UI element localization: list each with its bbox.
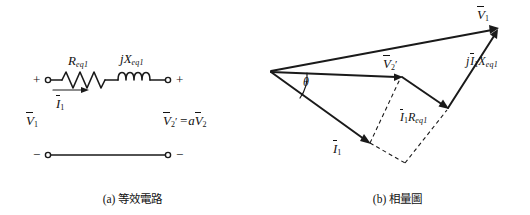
- minus-sign-left: −: [33, 148, 40, 161]
- phasor-v1-subscript: 1: [485, 14, 489, 23]
- panel-a-caption: (a) 等效電路: [0, 190, 265, 206]
- construction-line-bottom-left: [370, 143, 405, 163]
- phasor-v1-head: [489, 25, 499, 34]
- resistor-label: Req1: [68, 52, 88, 69]
- equivalent-circuit-drawing: [0, 0, 265, 215]
- phasor-v1-symbol: V: [477, 8, 485, 21]
- output-voltage-label: V2′=aV2: [163, 112, 207, 129]
- output-voltage-expression: =a: [179, 113, 194, 128]
- inductor-label-subscript: eq1: [132, 58, 144, 67]
- panel-b-caption: (b) 相量圖: [265, 190, 530, 206]
- resistor-label-symbol: R: [68, 53, 76, 68]
- phasor-ji1xeq-i-symbol: I: [470, 55, 474, 67]
- plus-sign-left: +: [33, 73, 40, 86]
- phasor-ji1xeq-x-symbol: X: [478, 54, 485, 68]
- current-label-symbol: I: [56, 97, 60, 110]
- phasor-i1-symbol: I: [333, 142, 337, 155]
- figure-container: + + − − Req1 jXeq1 I1 V1 V2′=aV2 (a) 等效電…: [0, 0, 530, 215]
- input-voltage-subscript: 1: [34, 120, 38, 129]
- output-voltage-ref-symbol: V: [195, 114, 203, 127]
- phasor-ji1xeq-j: j: [466, 54, 469, 68]
- terminal-input-bottom: [45, 152, 50, 157]
- theta-angle-label: θ: [303, 76, 309, 88]
- phasor-ji1xeq-x-subscript: eq1: [486, 60, 498, 69]
- phasor-i1req-label: I1Req1: [400, 108, 428, 125]
- phasor-i1-label: I1: [333, 140, 341, 157]
- phasor-ji1xeq-shaft: [448, 36, 494, 108]
- phasor-i1req-head: [439, 100, 450, 110]
- output-voltage-symbol: V: [163, 114, 171, 127]
- terminal-input-top: [45, 77, 50, 82]
- output-voltage-prime: ′: [175, 115, 177, 127]
- phasor-i1req-shaft: [402, 77, 443, 105]
- phasor-i1req-r-subscript: eq1: [415, 116, 427, 125]
- construction-line-left: [370, 79, 400, 143]
- current-label-subscript: 1: [60, 103, 64, 112]
- inductor-label: jXeq1: [120, 50, 144, 67]
- plus-sign-right: +: [176, 73, 183, 86]
- phasor-v2prime-label: V2′: [383, 55, 397, 72]
- phasor-i1-head: [360, 134, 371, 144]
- phasor-v2prime-shaft: [271, 72, 396, 77]
- current-label: I1: [56, 95, 64, 112]
- phasor-i1-subscript: 1: [337, 148, 341, 157]
- phasor-i1-shaft: [271, 72, 364, 139]
- phasor-ji1xeq-head: [490, 29, 498, 39]
- input-voltage-symbol: V: [26, 114, 34, 127]
- phasor-v2prime-symbol: V: [383, 57, 391, 70]
- input-voltage-label: V1: [26, 112, 38, 129]
- terminal-output-bottom: [165, 152, 170, 157]
- phasor-v1-label: V1: [477, 6, 489, 23]
- terminal-output-top: [165, 77, 170, 82]
- phasor-v1-shaft: [271, 30, 492, 71]
- inductor-label-symbol: X: [124, 51, 132, 66]
- minus-sign-right: −: [176, 148, 183, 161]
- phasor-v2prime-prime: ′: [395, 58, 397, 70]
- inductor-symbol: [118, 73, 150, 81]
- resistor-symbol: [62, 72, 105, 88]
- phasor-ji1xeq-label: jI1Xeq1: [466, 52, 498, 69]
- phasor-v2prime-head: [394, 74, 403, 82]
- output-voltage-ref-subscript: 2: [203, 120, 207, 129]
- resistor-label-subscript: eq1: [76, 60, 88, 69]
- phasor-i1req-i-symbol: I: [400, 111, 404, 123]
